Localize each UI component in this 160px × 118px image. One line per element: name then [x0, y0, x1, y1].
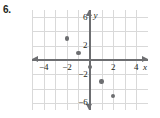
x-tick-label: −2 [62, 63, 72, 72]
problem-number: 6. [3, 4, 11, 15]
x-tick-label: 4 [134, 63, 139, 72]
y-tick-label: 6 [83, 13, 88, 22]
scatter-point [76, 51, 80, 55]
y-tick-label: −2 [78, 70, 88, 79]
scatter-point [88, 65, 92, 69]
y-tick-label: −6 [78, 98, 88, 107]
scatter-point [99, 79, 103, 83]
y-axis [89, 10, 91, 110]
coordinate-plane: −4−22462−2−6xy [32, 10, 148, 110]
y-tick-label: 2 [83, 41, 88, 50]
x-tick-label: −4 [39, 63, 49, 72]
worksheet-problem-figure: 6. −4−22462−2−6xy [0, 0, 160, 118]
y-axis-label: y [94, 11, 98, 20]
scatter-point [65, 36, 69, 40]
x-axis-arrow-left [32, 56, 38, 62]
x-tick-label: 2 [111, 63, 116, 72]
x-axis-label: x [143, 63, 147, 72]
scatter-point [111, 94, 115, 98]
